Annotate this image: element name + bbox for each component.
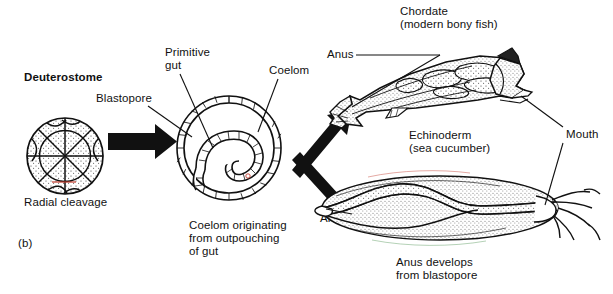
- sea-cucumber-illustration: [315, 171, 600, 246]
- radial-cleavage-embryo-icon: [27, 116, 103, 196]
- arrow-cleavage-to-gastrula: [108, 124, 177, 159]
- fish-head: [490, 58, 524, 98]
- deuterostome-development-figure: Deuterostome Radial cleavage (b) Blastop…: [0, 0, 613, 294]
- figure-artwork: [0, 0, 613, 294]
